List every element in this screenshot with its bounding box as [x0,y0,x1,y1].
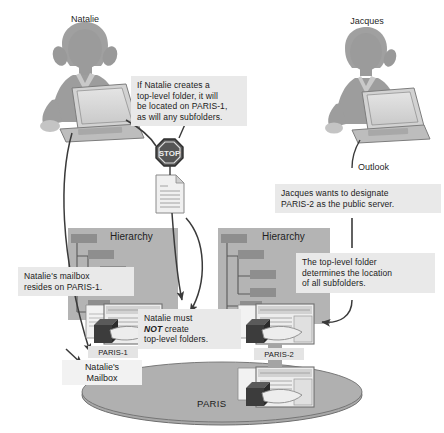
hierarchy-title-right: Hierarchy [262,231,305,242]
svg-text:STOP: STOP [159,149,181,158]
outlook-label: Outlook [358,162,389,172]
site-label-paris: PARIS [197,398,226,409]
connector-arc-left-panel [186,218,202,312]
stop-sign-icon: STOP [156,139,183,166]
person-name-jacques: Jacques [332,16,402,27]
callout-natalie-must-not: Natalie must NOT create top-level folder… [138,309,241,349]
diagram-canvas: STOP [0,0,444,433]
person-name-natalie: Natalie [52,14,118,25]
callout-jacques-designate: Jacques wants to designate PARIS-2 as th… [275,184,441,213]
callout-natalie-top-level: If Natalie creates a top-level folder, i… [131,76,247,126]
callout-natalie-mailbox-resides: Natalie's mailbox resides on PARIS-1. [18,267,134,296]
callout-emphasis-not: NOT [144,324,162,334]
server-label-paris-1: PARIS-1 [88,346,138,358]
hierarchy-title-left: Hierarchy [110,231,153,242]
server-paris-2 [238,304,314,344]
server-label-paris-2: PARIS-2 [254,348,304,360]
label-natalies-mailbox: Natalie's Mailbox [62,360,142,385]
callout-top-level-determines: The top-level folder determines the loca… [296,253,435,293]
callout-text-before: Natalie must [144,313,192,323]
document-icon [156,175,184,213]
